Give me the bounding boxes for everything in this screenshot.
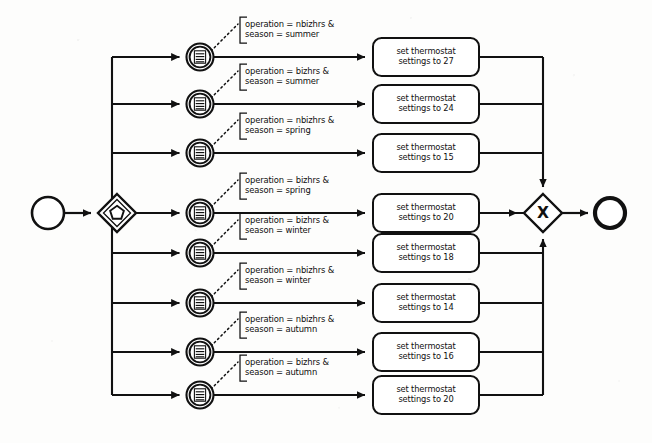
condition-annotation-1: operation = nbizhrs &season = summer: [245, 19, 334, 39]
annotation-leader-6: [211, 270, 238, 297]
task-label-line2-3: settings to 15: [373, 152, 479, 162]
task-label-7: set thermostatsettings to 16: [373, 341, 479, 361]
condition-line2-8: season = autumn: [245, 367, 329, 377]
task-label-line2-1: settings to 27: [373, 56, 479, 66]
condition-annotation-3: operation = nbizhrs &season = spring: [245, 115, 334, 135]
condition-line1-2: operation = bizhrs &: [245, 66, 329, 76]
condition-annotation-6: operation = nbizhrs &season = winter: [245, 265, 334, 285]
task-label-line1-7: set thermostat: [373, 341, 479, 351]
condition-annotation-7: operation = nbizhrs &season = autumn: [245, 314, 334, 334]
task-label-line2-4: settings to 20: [373, 212, 479, 222]
annotation-leader-5: [211, 220, 238, 247]
condition-line2-5: season = winter: [245, 225, 329, 235]
task-label-5: set thermostatsettings to 18: [373, 242, 479, 262]
annotation-leader-3: [211, 120, 238, 147]
task-label-1: set thermostatsettings to 27: [373, 46, 479, 66]
condition-line1-4: operation = bizhrs &: [245, 175, 329, 185]
task-label-line1-5: set thermostat: [373, 242, 479, 252]
task-label-3: set thermostatsettings to 15: [373, 142, 479, 162]
annotation-leader-4: [211, 180, 238, 207]
task-label-line2-2: settings to 24: [373, 103, 479, 113]
conditional-intermediate-event-5[interactable]: [187, 240, 214, 267]
task-label-line2-7: settings to 16: [373, 351, 479, 361]
annotation-leader-8: [211, 362, 238, 389]
task-label-line1-4: set thermostat: [373, 202, 479, 212]
conditional-intermediate-event-4[interactable]: [187, 200, 214, 227]
condition-annotation-5: operation = bizhrs &season = winter: [245, 215, 329, 235]
task-label-line1-1: set thermostat: [373, 46, 479, 56]
condition-line1-7: operation = nbizhrs &: [245, 314, 334, 324]
condition-annotation-2: operation = bizhrs &season = summer: [245, 66, 329, 86]
condition-line1-1: operation = nbizhrs &: [245, 19, 334, 29]
conditional-intermediate-event-1[interactable]: [187, 44, 214, 71]
task-label-line1-6: set thermostat: [373, 292, 479, 302]
exclusive-gateway[interactable]: X: [524, 194, 562, 232]
task-label-2: set thermostatsettings to 24: [373, 93, 479, 113]
condition-line2-2: season = summer: [245, 76, 329, 86]
condition-line1-6: operation = nbizhrs &: [245, 265, 334, 275]
diagram-canvas: X set thermostatsettings to 27operation …: [0, 0, 652, 443]
end-event[interactable]: [595, 198, 625, 228]
conditional-intermediate-event-7[interactable]: [187, 339, 214, 366]
condition-line1-8: operation = bizhrs &: [245, 357, 329, 367]
condition-annotation-8: operation = bizhrs &season = autumn: [245, 357, 329, 377]
complex-gateway[interactable]: [98, 194, 136, 232]
task-label-line2-8: settings to 20: [373, 394, 479, 404]
task-label-line1-3: set thermostat: [373, 142, 479, 152]
task-label-8: set thermostatsettings to 20: [373, 384, 479, 404]
task-label-6: set thermostatsettings to 14: [373, 292, 479, 312]
conditional-intermediate-event-6[interactable]: [187, 290, 214, 317]
condition-line1-3: operation = nbizhrs &: [245, 115, 334, 125]
condition-annotation-4: operation = bizhrs &season = spring: [245, 175, 329, 195]
annotation-leader-1: [211, 24, 238, 51]
annotation-leader-7: [211, 319, 238, 346]
task-label-line2-5: settings to 18: [373, 252, 479, 262]
task-label-line1-8: set thermostat: [373, 384, 479, 394]
condition-line2-1: season = summer: [245, 29, 334, 39]
task-label-line2-6: settings to 14: [373, 302, 479, 312]
conditional-intermediate-event-8[interactable]: [187, 382, 214, 409]
task-label-line1-2: set thermostat: [373, 93, 479, 103]
condition-line2-4: season = spring: [245, 185, 329, 195]
condition-line1-5: operation = bizhrs &: [245, 215, 329, 225]
task-label-4: set thermostatsettings to 20: [373, 202, 479, 222]
condition-line2-6: season = winter: [245, 275, 334, 285]
exclusive-gateway-symbol: X: [537, 204, 549, 222]
annotation-leader-2: [211, 71, 238, 98]
conditional-intermediate-event-2[interactable]: [187, 91, 214, 118]
conditional-intermediate-event-3[interactable]: [187, 140, 214, 167]
start-event[interactable]: [32, 197, 64, 229]
condition-line2-7: season = autumn: [245, 324, 334, 334]
condition-line2-3: season = spring: [245, 125, 334, 135]
